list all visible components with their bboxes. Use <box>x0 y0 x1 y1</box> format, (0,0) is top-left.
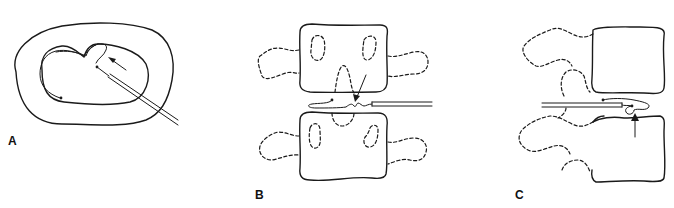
panel-label-b: B <box>255 189 264 201</box>
panel-a-diagram <box>15 23 178 125</box>
lower-spinous-notch <box>332 113 354 126</box>
upper-vertebral-body <box>592 27 665 94</box>
lower-right-transverse-process <box>388 138 427 164</box>
needle-entry-dash <box>558 108 566 118</box>
needle-line-1 <box>108 77 178 125</box>
lower-left-transverse-process <box>260 132 299 160</box>
upper-posterior-elements <box>523 28 593 66</box>
catheter-tip-dot <box>331 99 334 102</box>
lower-vertebral-body <box>592 116 665 182</box>
arrow-head-icon <box>353 94 360 102</box>
upper-right-transverse-process <box>388 52 428 77</box>
annulus-outer-contour <box>15 23 173 125</box>
lower-left-pedicle <box>309 124 320 148</box>
panel-c-diagram <box>519 27 665 182</box>
upper-left-pedicle <box>311 36 325 61</box>
catheter <box>309 100 372 108</box>
catheter <box>603 99 649 115</box>
lower-vertebral-body <box>300 112 388 180</box>
nucleus-inner-contour <box>42 44 149 104</box>
upper-right-pedicle <box>363 36 376 60</box>
needle-tip-dot <box>631 105 634 108</box>
upper-left-transverse-process <box>258 48 299 79</box>
panel-b-diagram <box>258 24 432 180</box>
upper-spinous-process <box>335 66 354 93</box>
figure-canvas <box>0 0 674 208</box>
panel-label-c: C <box>515 189 524 201</box>
catheter-tip-dot <box>60 97 63 100</box>
needle-stylet <box>97 67 109 76</box>
upper-facet <box>561 70 590 96</box>
lower-facet <box>562 160 590 172</box>
lower-posterior-elements <box>519 116 593 154</box>
catheter-tip-dot <box>602 99 605 102</box>
lower-right-pedicle <box>364 125 378 147</box>
arrow-shaft <box>357 75 366 97</box>
figure: A B C <box>0 0 674 208</box>
panel-label-a: A <box>8 135 17 147</box>
